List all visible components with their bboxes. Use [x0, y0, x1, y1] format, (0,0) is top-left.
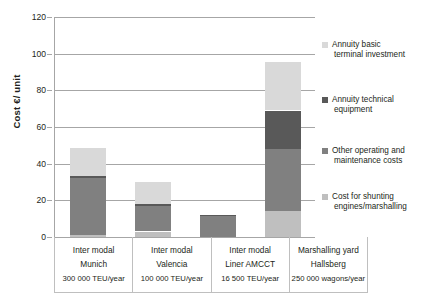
x-axis-category-line: 250 000 wagons/year: [292, 275, 366, 283]
legend-item[interactable]: Other operating andmaintenance costs: [322, 146, 444, 167]
x-axis-category-line: 100 000 TEU/year: [141, 275, 203, 283]
legend-label: Annuity technicalequipment: [332, 95, 394, 116]
y-axis-tick: [47, 17, 52, 18]
y-axis-tick: [47, 164, 52, 165]
bar-group: [200, 17, 236, 237]
y-axis-tick-label: 20: [8, 195, 46, 205]
y-axis-tick-label: 40: [8, 159, 46, 169]
y-axis-title: Cost €/ unit: [11, 42, 22, 162]
bar-segment: [265, 149, 301, 211]
y-axis-tick-label: 0: [8, 232, 46, 242]
legend-label: Other operating andmaintenance costs: [332, 146, 405, 167]
x-axis-category-line: Liner AMCCT: [225, 260, 275, 269]
legend-swatch-icon: [322, 194, 328, 200]
bar-segment: [135, 204, 171, 206]
legend-swatch-icon: [322, 148, 328, 154]
x-axis-category-line: Hallsberg: [311, 260, 346, 269]
bar-segment: [265, 211, 301, 237]
bar-segment: [70, 178, 106, 235]
legend-label: Annuity basicterminal investment: [332, 40, 405, 61]
bar-segment: [135, 182, 171, 204]
x-axis-category-cell: Marshalling yardHallsberg250 000 wagons/…: [290, 237, 367, 292]
x-axis-category-cell: Inter modalLiner AMCCT16 500 TEU/year: [212, 237, 290, 292]
y-axis-tick-label: 80: [8, 85, 46, 95]
plot-area: [54, 17, 314, 237]
y-axis-tick-label: 120: [8, 12, 46, 22]
y-axis-tick: [47, 54, 52, 55]
x-axis-category-line: Valencia: [156, 260, 187, 269]
bar-segment: [70, 148, 106, 176]
y-axis-tick: [47, 127, 52, 128]
y-axis-tick: [47, 90, 52, 91]
bar-segment: [200, 215, 236, 216]
chart-container: Cost €/ unit 020406080100120 Inter modal…: [0, 0, 446, 305]
bar-group: [70, 17, 106, 237]
bar-segment: [200, 216, 236, 237]
x-axis-category-line: Munich: [80, 260, 107, 269]
x-axis-category-cell: Inter modalMunich300 000 TEU/year: [55, 237, 133, 292]
x-axis-category-line: 300 000 TEU/year: [62, 275, 124, 283]
x-axis-category-table: Inter modalMunich300 000 TEU/yearInter m…: [54, 237, 368, 293]
x-axis-category-line: Inter modal: [151, 246, 193, 255]
x-axis-category-line: 16 500 TEU/year: [221, 275, 279, 283]
legend-item[interactable]: Annuity basicterminal investment: [322, 40, 444, 61]
bar-group: [135, 17, 171, 237]
y-axis-tick: [47, 200, 52, 201]
x-axis-category-line: Inter modal: [229, 246, 271, 255]
bar-segment: [265, 62, 301, 111]
x-axis-category-cell: Inter modalValencia100 000 TEU/year: [133, 237, 211, 292]
legend-swatch-icon: [322, 42, 328, 48]
legend-item[interactable]: Annuity technicalequipment: [322, 95, 444, 116]
y-axis-tick: [47, 237, 52, 238]
bar-segment: [70, 176, 106, 179]
legend-label: Cost for shuntingengines/marshalling: [332, 192, 407, 213]
y-axis-tick-label: 100: [8, 49, 46, 59]
bar-group: [265, 17, 301, 237]
x-axis-category-line: Marshalling yard: [298, 246, 359, 255]
y-axis-tick-label: 60: [8, 122, 46, 132]
bar-segment: [265, 111, 301, 150]
legend-swatch-icon: [322, 97, 328, 103]
bar-segment: [135, 206, 171, 232]
x-axis-category-line: Inter modal: [73, 246, 115, 255]
legend-item[interactable]: Cost for shuntingengines/marshalling: [322, 192, 444, 213]
